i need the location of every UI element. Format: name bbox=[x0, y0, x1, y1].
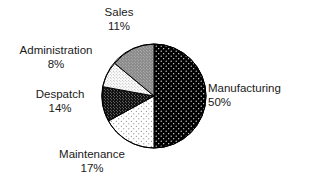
pie-label-manufacturing-value: 50% bbox=[208, 96, 281, 110]
pie-label-manufacturing-name: Manufacturing bbox=[208, 82, 281, 96]
pie-slice-manufacturing bbox=[154, 44, 206, 148]
pie-label-despatch-name: Despatch bbox=[22, 88, 98, 102]
pie-label-maintenance-name: Maintenance bbox=[46, 148, 138, 162]
chart-plot-area: Manufacturing 50% Sales 11% Administrati… bbox=[0, 0, 310, 189]
pie-label-sales-value: 11% bbox=[84, 20, 154, 34]
pie-label-sales: Sales 11% bbox=[84, 6, 154, 33]
pie-label-sales-name: Sales bbox=[84, 6, 154, 20]
pie-label-despatch: Despatch 14% bbox=[22, 88, 98, 115]
pie-label-maintenance-value: 17% bbox=[46, 162, 138, 176]
pie-label-administration-value: 8% bbox=[10, 58, 102, 72]
pie-label-administration: Administration 8% bbox=[10, 44, 102, 71]
pie-chart-figure: Manufacturing 50% Sales 11% Administrati… bbox=[0, 0, 310, 189]
pie-label-administration-name: Administration bbox=[10, 44, 102, 58]
pie-label-manufacturing: Manufacturing 50% bbox=[208, 82, 281, 109]
pie-label-despatch-value: 14% bbox=[22, 102, 98, 116]
pie-label-maintenance: Maintenance 17% bbox=[46, 148, 138, 175]
